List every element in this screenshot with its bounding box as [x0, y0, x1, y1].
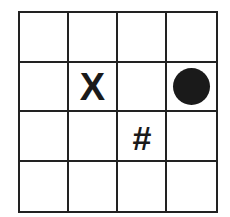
cell-r2-c1[interactable] — [20, 63, 69, 113]
cell-r1-c2[interactable] — [69, 13, 118, 63]
cell-r2-c4[interactable] — [167, 63, 216, 113]
cell-r2-c3[interactable] — [118, 63, 167, 113]
cell-r4-c4[interactable] — [167, 162, 216, 212]
game-board: X # — [18, 11, 218, 213]
filled-circle-icon — [173, 68, 210, 105]
cell-r3-c4[interactable] — [167, 112, 216, 162]
cell-r1-c3[interactable] — [118, 13, 167, 63]
cell-r1-c1[interactable] — [20, 13, 69, 63]
cell-r2-c2[interactable]: X — [69, 63, 118, 113]
x-mark-icon: X — [80, 68, 105, 106]
cell-r4-c2[interactable] — [69, 162, 118, 212]
hash-mark-icon: # — [132, 121, 151, 155]
cell-r4-c3[interactable] — [118, 162, 167, 212]
cell-r3-c2[interactable] — [69, 112, 118, 162]
cell-r3-c1[interactable] — [20, 112, 69, 162]
cell-r1-c4[interactable] — [167, 13, 216, 63]
cell-r3-c3[interactable]: # — [118, 112, 167, 162]
cell-r4-c1[interactable] — [20, 162, 69, 212]
